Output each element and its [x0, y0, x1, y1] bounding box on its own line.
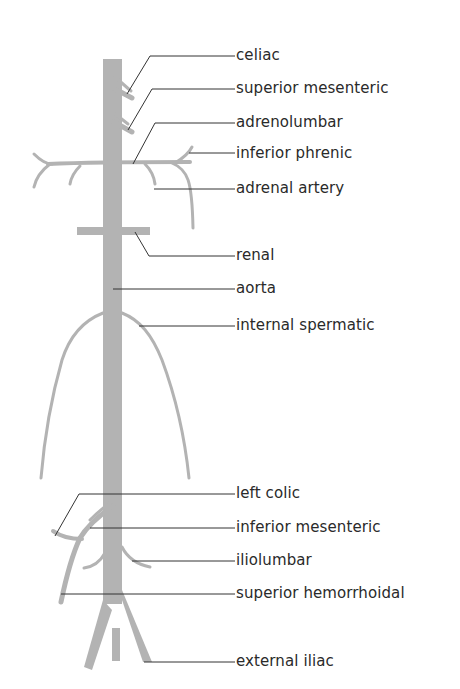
label-celiac: celiac [236, 46, 280, 64]
label-iliolumbar: iliolumbar [236, 551, 312, 569]
label-superior-hemorrhoidal: superior hemorrhoidal [236, 584, 405, 602]
label-internal-spermatic: internal spermatic [236, 316, 375, 334]
label-inferior-mesenteric: inferior mesenteric [236, 518, 381, 536]
label-external-iliac: external iliac [236, 652, 334, 670]
superior-hemorrhoidal-branch [61, 538, 80, 602]
aorta-vessel [84, 59, 152, 670]
label-superior-mesenteric: superior mesenteric [236, 79, 389, 97]
label-aorta: aorta [236, 279, 276, 297]
label-adrenolumbar: adrenolumbar [236, 113, 343, 131]
label-renal: renal [236, 246, 274, 264]
label-inferior-phrenic: inferior phrenic [236, 144, 352, 162]
label-left-colic: left colic [236, 484, 300, 502]
renal-branch [77, 227, 150, 235]
leader-lines [55, 56, 235, 662]
label-adrenal-artery: adrenal artery [236, 179, 344, 197]
